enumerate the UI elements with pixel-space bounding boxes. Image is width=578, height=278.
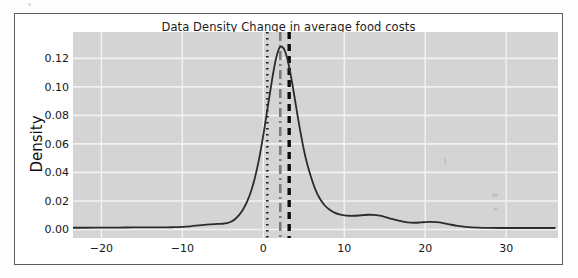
y-tick-label: 0.08 <box>45 109 70 122</box>
y-tick-label: 0.00 <box>45 223 70 236</box>
x-tick-label: −10 <box>171 242 194 255</box>
x-tick-label: 10 <box>337 242 351 255</box>
gridlines <box>73 32 558 238</box>
scanned-page-background: Data Density Change in average food cost… <box>0 0 578 278</box>
y-axis-tick-labels: 0.000.020.040.060.080.100.12 <box>23 14 69 266</box>
figure-frame: Data Density Change in average food cost… <box>14 13 563 265</box>
plot-area: ⌇ ≈ ⌁ <box>73 32 558 238</box>
x-tick-label: −20 <box>90 242 113 255</box>
x-tick-label: 30 <box>499 242 513 255</box>
y-tick-label: 0.04 <box>45 166 70 179</box>
density-plot-svg <box>73 32 558 238</box>
y-tick-label: 0.02 <box>45 194 70 207</box>
scan-speck <box>28 3 31 6</box>
x-tick-label: 20 <box>418 242 432 255</box>
y-tick-label: 0.12 <box>45 52 70 65</box>
y-tick-label: 0.10 <box>45 80 70 93</box>
y-tick-label: 0.06 <box>45 137 70 150</box>
x-axis-tick-labels: −20−100102030 <box>15 242 564 264</box>
vertical-marker-lines <box>267 32 289 238</box>
x-tick-label: 0 <box>260 242 267 255</box>
